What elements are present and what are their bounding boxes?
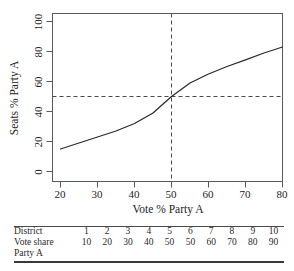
y-axis-title: Seats % Party A: [8, 61, 20, 135]
x-tick-label-60: 60: [203, 188, 214, 200]
x-axis-ticks: [61, 182, 283, 188]
table-row-party-a: Party A: [14, 248, 284, 259]
table-bottom-rule: [14, 261, 284, 263]
y-axis-ticks: [47, 22, 53, 172]
x-tick-label-40: 40: [129, 188, 140, 200]
y-tick-label-60: 60: [32, 77, 44, 88]
table-cell: 60: [201, 237, 222, 248]
row-label-district: District: [14, 226, 76, 237]
district-vote-share-table: District 1 2 3 4 5 6 7 8 9 10 Vote share…: [14, 226, 284, 259]
table-cell-empty: [76, 248, 284, 259]
y-tick-label-80: 80: [32, 47, 44, 58]
y-tick-label-20: 20: [32, 137, 44, 148]
y-tick-label-40: 40: [32, 107, 44, 118]
table-cell: 20: [97, 237, 118, 248]
table-cell: 9: [242, 226, 263, 237]
table-cell: 3: [118, 226, 139, 237]
table-cell: 50: [180, 237, 201, 248]
x-tick-label-20: 20: [55, 188, 66, 200]
table-cell: 4: [138, 226, 159, 237]
table-row-district: District 1 2 3 4 5 6 7 8 9 10: [14, 226, 284, 237]
x-tick-label-30: 30: [92, 188, 103, 200]
table-cell: 1: [76, 226, 97, 237]
y-tick-label-100: 100: [32, 14, 44, 31]
plot-frame: [53, 14, 283, 182]
seats-votes-figure: 20 30 40 50 60 70 80 0 20 40 60 80 100 V…: [0, 0, 294, 271]
y-tick-label-0: 0: [32, 169, 44, 175]
table-cell: 6: [180, 226, 201, 237]
row-label-party-a: Party A: [14, 248, 76, 259]
table-row-vote-share: Vote share 10 20 30 40 50 50 60 70 80 90: [14, 237, 284, 248]
x-tick-label-80: 80: [277, 188, 288, 200]
table-cell: 90: [263, 237, 284, 248]
table-cell: 5: [159, 226, 180, 237]
x-axis-title: Vote % Party A: [132, 203, 203, 215]
table-cell: 2: [97, 226, 118, 237]
table-cell: 8: [222, 226, 243, 237]
table-cell: 10: [76, 237, 97, 248]
x-tick-label-70: 70: [240, 188, 251, 200]
row-label-vote-share: Vote share: [14, 237, 76, 248]
table-cell: 40: [138, 237, 159, 248]
table-cell: 7: [201, 226, 222, 237]
table-cell: 30: [118, 237, 139, 248]
table-cell: 80: [242, 237, 263, 248]
x-tick-label-50: 50: [166, 188, 177, 200]
table-cell: 50: [159, 237, 180, 248]
table-cell: 10: [263, 226, 284, 237]
table-cell: 70: [222, 237, 243, 248]
